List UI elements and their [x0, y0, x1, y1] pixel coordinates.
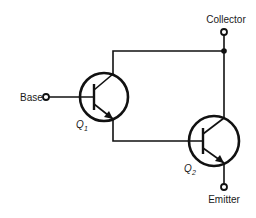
q2-collector-lead: [203, 118, 224, 134]
base-terminal: [43, 94, 49, 100]
emitter-label: Emitter: [208, 194, 240, 205]
q1-subscript: 1: [84, 125, 88, 132]
darlington-diagram: Collector Base Q 1 Q 2 Emitter: [0, 0, 256, 218]
emitter-terminal: [221, 184, 227, 190]
q1-collector-lead: [94, 74, 113, 90]
collector-label: Collector: [206, 14, 246, 25]
q1-label: Q: [76, 119, 84, 130]
collector-terminal: [221, 29, 227, 35]
q1-collector-wire: [113, 51, 224, 74]
q2-label: Q: [184, 163, 192, 174]
q2-emitter-arrow-icon: [215, 155, 224, 163]
q2-subscript: 2: [191, 169, 196, 176]
base-label: Base: [20, 92, 43, 103]
